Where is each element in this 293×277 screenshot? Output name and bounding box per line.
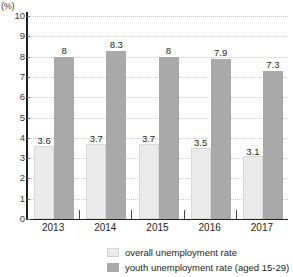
bar-value-label: 3.1 (246, 147, 259, 157)
y-axis-tick-mark (27, 178, 30, 179)
bar: 8 (54, 57, 74, 219)
y-axis-tick-mark (27, 36, 30, 37)
x-axis-tick-label: 2016 (184, 223, 236, 233)
bar-group: 3.17.3 (243, 16, 283, 219)
y-axis-tick-label: 6 (3, 92, 25, 102)
light-gray-swatch-icon (107, 248, 119, 257)
y-axis-tick-mark (27, 77, 30, 78)
x-axis-tick-mark (131, 210, 132, 219)
bar-group: 3.78.3 (86, 16, 126, 219)
y-axis-tick-mark (27, 16, 30, 17)
y-axis-tick-label: 5 (3, 113, 25, 123)
x-axis-tick-label: 2015 (131, 223, 183, 233)
bar-chart: (%) 012345678910 3.683.78.33.783.57.93.1… (0, 0, 293, 277)
bar-value-label: 3.6 (37, 136, 50, 146)
y-axis-tick-label: 1 (3, 194, 25, 204)
x-axis-tick-label: 2017 (236, 223, 288, 233)
bar-group: 3.57.9 (191, 16, 231, 219)
bar-value-label: 8.3 (110, 40, 123, 50)
y-axis-tick-label: 2 (3, 173, 25, 183)
y-axis-tick-mark (27, 57, 30, 58)
x-axis-tick-mark (236, 210, 237, 219)
bar: 7.3 (263, 71, 283, 219)
y-axis-tick-mark (27, 138, 30, 139)
bar: 3.7 (139, 144, 159, 219)
x-axis-tick-label: 2013 (27, 223, 79, 233)
x-axis-line (26, 219, 288, 220)
bar-value-label: 7.9 (214, 48, 227, 58)
chart-legend: overall unemployment rate youth unemploy… (107, 245, 293, 275)
bar: 8.3 (106, 51, 126, 219)
y-axis-tick-label: 8 (3, 52, 25, 62)
bar: 7.9 (211, 59, 231, 219)
x-axis-tick-mark (184, 210, 185, 219)
y-axis-tick-label: 0 (3, 214, 25, 224)
bar-value-label: 3.7 (142, 134, 155, 144)
bar: 3.1 (243, 156, 263, 219)
y-axis-tick-mark (27, 97, 30, 98)
plot-area: 3.683.78.33.783.57.93.17.3 (27, 16, 288, 219)
y-axis-tick-label: 9 (3, 31, 25, 41)
y-axis-tick-mark (27, 118, 30, 119)
legend-item-label: overall unemployment rate (125, 248, 237, 258)
bar-group: 3.78 (139, 16, 179, 219)
y-axis-tick-label: 3 (3, 153, 25, 163)
x-axis-tick-label: 2014 (79, 223, 131, 233)
bar: 3.5 (191, 148, 211, 219)
legend-item-youth: youth unemployment rate (aged 15-29) (107, 260, 293, 275)
y-axis-tick-mark (27, 199, 30, 200)
bar: 3.7 (86, 144, 106, 219)
legend-item-overall: overall unemployment rate (107, 245, 293, 260)
y-axis-tick-mark (27, 219, 30, 220)
bar-value-label: 8 (61, 46, 66, 56)
y-axis-tick-labels: 012345678910 (0, 0, 25, 277)
y-axis-tick-label: 10 (3, 11, 25, 21)
y-axis-tick-label: 4 (3, 133, 25, 143)
y-axis-tick-label: 7 (3, 72, 25, 82)
bar-value-label: 3.5 (194, 138, 207, 148)
legend-item-label: youth unemployment rate (aged 15-29) (125, 263, 289, 273)
x-axis-tick-mark (79, 210, 80, 219)
bar-value-label: 3.7 (90, 134, 103, 144)
dark-gray-swatch-icon (107, 263, 119, 272)
y-axis-tick-mark (27, 158, 30, 159)
bar-group: 3.68 (34, 16, 74, 219)
bar: 3.6 (34, 146, 54, 219)
bar: 8 (159, 57, 179, 219)
bar-value-label: 7.3 (266, 60, 279, 70)
bar-value-label: 8 (166, 46, 171, 56)
